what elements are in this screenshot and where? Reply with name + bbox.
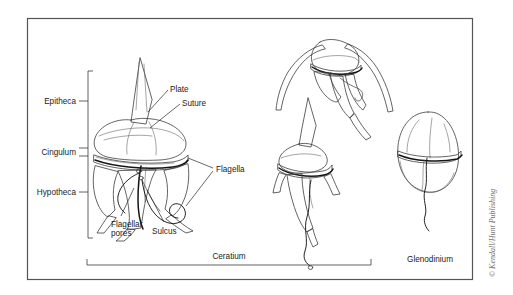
label-flagellar-pores-line1: Flagellar bbox=[111, 220, 143, 229]
label-epitheca: Epitheca bbox=[44, 97, 76, 106]
label-suture: Suture bbox=[182, 99, 207, 108]
label-flagella: Flagella bbox=[216, 165, 245, 174]
label-genus-glenodinium: Glenodinium bbox=[407, 255, 453, 264]
figure-frame bbox=[28, 19, 473, 280]
copyright-credit: © Kendall/Hunt Publishing bbox=[488, 189, 497, 277]
label-sulcus: Sulcus bbox=[152, 227, 177, 236]
label-cingulum: Cingulum bbox=[41, 148, 76, 157]
figure-root: Epitheca Cingulum Hypotheca Plate Suture… bbox=[0, 0, 513, 295]
label-hypotheca: Hypotheca bbox=[37, 188, 77, 197]
dinoflagellate-figure: Epitheca Cingulum Hypotheca Plate Suture… bbox=[0, 0, 513, 295]
label-plate: Plate bbox=[170, 85, 189, 94]
label-genus-ceratium: Ceratium bbox=[212, 252, 245, 261]
label-flagellar-pores-line2: pores bbox=[111, 229, 131, 238]
